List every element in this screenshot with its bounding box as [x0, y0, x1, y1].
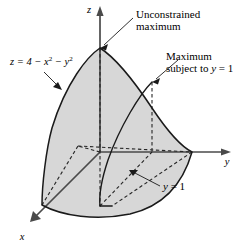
constrained-max-label-line2: subject to y = 1 [166, 62, 233, 74]
z-axis-arrowhead [96, 6, 103, 16]
surface-equation-label: z = 4 − x2 − y2 [9, 55, 73, 67]
constraint-plane-label: y = 1 [162, 180, 185, 192]
y-axis-label: y [224, 156, 230, 167]
z-axis-label: z [86, 4, 91, 15]
equation-part-prefix: z = 4 − x [9, 56, 49, 67]
equation-leader [44, 72, 58, 86]
constrained-max-label-prefix: subject to [166, 62, 211, 74]
y-axis-arrowhead [221, 148, 231, 155]
figure-container: z y x Unconstrained maximum Maximum subj… [0, 0, 238, 252]
equation-exponent-y: 2 [69, 55, 73, 63]
unconstrained-max-label-line2: maximum [136, 20, 181, 32]
constrained-max-label-line1: Maximum [166, 50, 212, 62]
constraint-plane-value: = 1 [168, 180, 185, 192]
unconstrained-max-leader [104, 18, 133, 45]
equation-leader-arrowhead [53, 82, 62, 90]
unconstrained-max-label-line1: Unconstrained [136, 8, 201, 20]
x-axis-label: x [19, 231, 25, 242]
paraboloid-figure: z y x Unconstrained maximum Maximum subj… [0, 0, 238, 252]
constrained-max-label-suffix: = 1 [216, 62, 233, 74]
equation-part-mid: − y [52, 56, 69, 67]
